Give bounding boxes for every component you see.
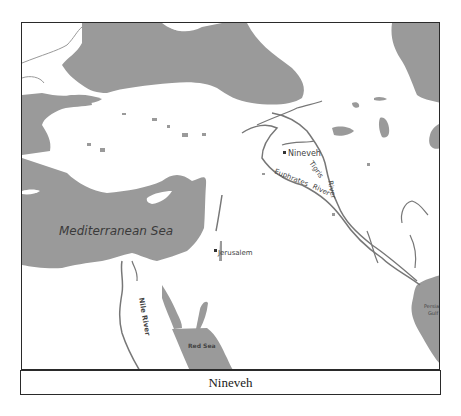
upper-river-w <box>22 77 44 83</box>
lake-small <box>374 97 387 101</box>
lake-van <box>332 127 354 136</box>
mediterranean-sea <box>22 158 206 268</box>
river-tributary-3 <box>401 201 428 223</box>
tigris-label: Tigris <box>307 159 325 180</box>
caption-text: Nineveh <box>208 375 252 391</box>
nineveh-label: Nineveh <box>288 149 321 158</box>
black-sea <box>62 23 304 105</box>
gulf-of-suez <box>162 285 182 329</box>
map-frame: Nile River Red Sea Persian Gulf <box>21 22 440 370</box>
red-sea <box>172 328 234 370</box>
caspian-sea <box>391 23 440 103</box>
river-tributary-1 <box>257 101 322 125</box>
jerusalem-marker <box>214 249 217 252</box>
persian-gulf-label-2: Gulf <box>428 310 438 316</box>
caption-box: Nineveh <box>20 370 441 395</box>
river-tributary-2 <box>282 141 314 145</box>
caspian-sea-south <box>429 123 440 149</box>
river-tributary-5 <box>410 235 416 268</box>
lake-urmia <box>379 118 389 138</box>
map-svg: Nile River Red Sea Persian Gulf <box>22 23 440 370</box>
jerusalem-label: Jerusalem <box>217 249 253 257</box>
euphrates-label: Euphrates <box>273 167 309 188</box>
mediterranean-label: Mediterranean Sea <box>59 224 173 238</box>
nineveh-marker <box>283 151 286 154</box>
persian-gulf <box>411 275 440 365</box>
nile-branch <box>132 261 137 281</box>
nile-label: Nile River <box>137 297 152 337</box>
persian-gulf-label-1: Persian <box>424 303 440 309</box>
gulf-of-aqaba <box>196 302 208 329</box>
jordan-river <box>216 195 222 231</box>
red-sea-label: Red Sea <box>188 342 216 349</box>
tigris-river <box>272 113 417 281</box>
lake-tiny <box>352 102 359 108</box>
